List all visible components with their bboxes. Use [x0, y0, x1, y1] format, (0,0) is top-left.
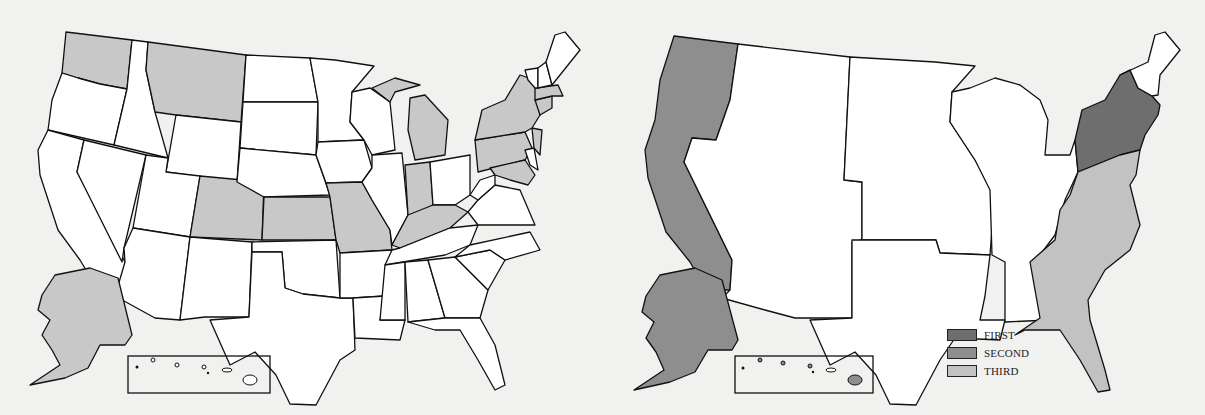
- legend-label: FIRST: [984, 329, 1015, 341]
- hawaii-inset: [735, 356, 873, 393]
- state-michigan: [408, 95, 448, 160]
- state-alaska: [30, 268, 132, 385]
- state-ohio: [430, 155, 470, 205]
- state-iowa: [316, 140, 372, 183]
- state-new-york: [475, 75, 540, 140]
- legend-item-third: THIRD: [947, 362, 1029, 380]
- left-us-map: [0, 0, 600, 415]
- state-montana: [146, 42, 246, 122]
- legend-item-first: FIRST: [947, 326, 1029, 344]
- state-north-dakota: [243, 55, 318, 102]
- legend-swatch-third: [947, 365, 977, 377]
- state-maine: [546, 32, 580, 85]
- state-kansas: [262, 197, 336, 240]
- state-arizona: [115, 228, 190, 320]
- state-new-mexico: [180, 237, 252, 320]
- state-wyoming: [166, 115, 241, 182]
- legend-swatch-first: [947, 329, 977, 341]
- hawaii-inset: [128, 356, 270, 393]
- legend-label: THIRD: [984, 365, 1019, 377]
- legend-label: SECOND: [984, 347, 1029, 359]
- state-south-dakota: [240, 102, 318, 155]
- map-legend: FIRST SECOND THIRD: [947, 326, 1029, 380]
- right-us-map: [600, 0, 1205, 415]
- region-alaska: [634, 268, 738, 390]
- legend-swatch-second: [947, 347, 977, 359]
- left-map: [0, 0, 600, 415]
- right-map: [600, 0, 1205, 415]
- legend-item-second: SECOND: [947, 344, 1029, 362]
- state-florida: [408, 318, 505, 390]
